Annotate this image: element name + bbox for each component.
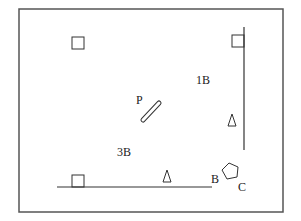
label-1B: 1B <box>196 73 210 87</box>
pentagon <box>222 163 238 179</box>
square-bottom <box>72 175 84 187</box>
square-top-left <box>72 37 84 49</box>
label-P: P <box>136 93 143 107</box>
triangle-bottom <box>163 170 171 182</box>
triangle-right <box>228 114 236 126</box>
diagram-canvas: 1B P 3B B C <box>0 0 301 221</box>
label-B: B <box>211 172 219 186</box>
rod-P <box>143 103 159 120</box>
square-top-right <box>232 35 244 47</box>
label-C: C <box>238 180 246 194</box>
label-3B: 3B <box>117 145 131 159</box>
